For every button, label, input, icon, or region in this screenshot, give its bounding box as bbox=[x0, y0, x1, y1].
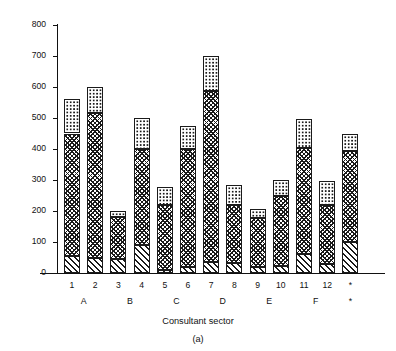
bar bbox=[110, 211, 126, 273]
stacked-bar-chart-figure: Number of contacts or DNAs 0100200300400… bbox=[0, 0, 396, 351]
bar bbox=[250, 209, 266, 273]
bar-segment-top bbox=[342, 134, 358, 151]
bar-segment-middle bbox=[319, 205, 335, 263]
bar-segment-bottom bbox=[87, 258, 103, 274]
bar-segment-top bbox=[203, 56, 219, 91]
x-group-label: * bbox=[330, 297, 370, 306]
x-group-label: C bbox=[156, 297, 196, 306]
bar-segment-middle bbox=[203, 91, 219, 262]
bar-segment-top bbox=[180, 126, 196, 149]
y-tick-mark bbox=[53, 180, 57, 181]
bar-segment-top bbox=[157, 187, 173, 205]
bar bbox=[273, 180, 289, 273]
y-tick-mark bbox=[53, 56, 57, 57]
y-tick-label: 200 bbox=[20, 206, 46, 215]
x-tick-label: 6 bbox=[176, 281, 200, 290]
y-axis-line bbox=[57, 24, 58, 274]
x-tick-label: * bbox=[338, 281, 362, 290]
bar-segment-top bbox=[319, 181, 335, 205]
x-tick-label: 12 bbox=[315, 281, 339, 290]
bar-segment-middle bbox=[180, 149, 196, 267]
bar bbox=[180, 126, 196, 273]
bar-segment-bottom bbox=[203, 262, 219, 273]
bar bbox=[226, 185, 242, 273]
bar-segment-bottom bbox=[64, 256, 80, 273]
y-tick-mark bbox=[53, 211, 57, 212]
bar-segment-top bbox=[273, 180, 289, 196]
bar bbox=[64, 99, 80, 273]
bar-segment-middle bbox=[157, 205, 173, 270]
x-group-label: D bbox=[203, 297, 243, 306]
bar-segment-top bbox=[250, 209, 266, 217]
x-tick-label: 9 bbox=[246, 281, 270, 290]
y-tick-mark bbox=[53, 242, 57, 243]
bar bbox=[134, 118, 150, 273]
x-tick-label: 4 bbox=[130, 281, 154, 290]
bar-segment-bottom bbox=[134, 245, 150, 273]
y-tick-mark bbox=[53, 118, 57, 119]
x-tick-label: 5 bbox=[153, 281, 177, 290]
bar-segment-middle bbox=[250, 218, 266, 268]
bar-segment-top bbox=[226, 185, 242, 205]
x-group-label: E bbox=[249, 297, 289, 306]
bar-segment-bottom bbox=[157, 270, 173, 273]
bar-segment-top bbox=[87, 87, 103, 113]
bar-segment-top bbox=[296, 119, 312, 148]
bar-segment-top bbox=[134, 118, 150, 149]
bar-segment-middle bbox=[134, 149, 150, 245]
bar bbox=[87, 87, 103, 273]
bar-segment-middle bbox=[273, 196, 289, 267]
x-tick-label: 11 bbox=[292, 281, 316, 290]
bar-segment-top bbox=[110, 211, 126, 217]
bar-segment-middle bbox=[226, 205, 242, 263]
bar-segment-middle bbox=[87, 113, 103, 257]
bar-segment-bottom bbox=[319, 264, 335, 273]
y-tick-mark bbox=[53, 273, 57, 274]
x-tick-label: 10 bbox=[269, 281, 293, 290]
y-tick-label: 800 bbox=[20, 20, 46, 29]
x-tick-label: 2 bbox=[83, 281, 107, 290]
bar-segment-bottom bbox=[226, 263, 242, 273]
x-tick-label: 1 bbox=[60, 281, 84, 290]
bar-segment-bottom bbox=[180, 267, 196, 273]
bar bbox=[342, 134, 358, 274]
bar-segment-bottom bbox=[342, 242, 358, 273]
bar-segment-bottom bbox=[296, 254, 312, 273]
bar-segment-middle bbox=[296, 148, 312, 254]
x-axis-line bbox=[40, 273, 385, 274]
bar-segment-top bbox=[64, 99, 80, 133]
bar-segment-bottom bbox=[273, 266, 289, 273]
y-tick-label: 0 bbox=[20, 268, 46, 277]
bar-segment-bottom bbox=[250, 267, 266, 273]
y-tick-mark bbox=[53, 149, 57, 150]
x-tick-label: 7 bbox=[199, 281, 223, 290]
y-tick-mark bbox=[53, 25, 57, 26]
bar bbox=[296, 119, 312, 273]
bar-segment-bottom bbox=[110, 259, 126, 273]
x-tick-label: 8 bbox=[222, 281, 246, 290]
y-tick-label: 500 bbox=[20, 113, 46, 122]
bar bbox=[157, 187, 173, 273]
bar bbox=[203, 56, 219, 273]
y-tick-mark bbox=[53, 87, 57, 88]
y-tick-label: 600 bbox=[20, 82, 46, 91]
y-tick-label: 100 bbox=[20, 237, 46, 246]
bar-segment-middle bbox=[64, 134, 80, 256]
y-tick-label: 300 bbox=[20, 175, 46, 184]
y-tick-label: 700 bbox=[20, 51, 46, 60]
x-group-label: A bbox=[64, 297, 104, 306]
bar-segment-middle bbox=[342, 151, 358, 242]
bar-segment-middle bbox=[110, 217, 126, 259]
x-tick-label: 3 bbox=[106, 281, 130, 290]
y-tick-label: 400 bbox=[20, 144, 46, 153]
x-axis-title: Consultant sector bbox=[0, 316, 396, 326]
x-group-label: B bbox=[110, 297, 150, 306]
bar bbox=[319, 181, 335, 273]
figure-caption: (a) bbox=[0, 334, 396, 344]
